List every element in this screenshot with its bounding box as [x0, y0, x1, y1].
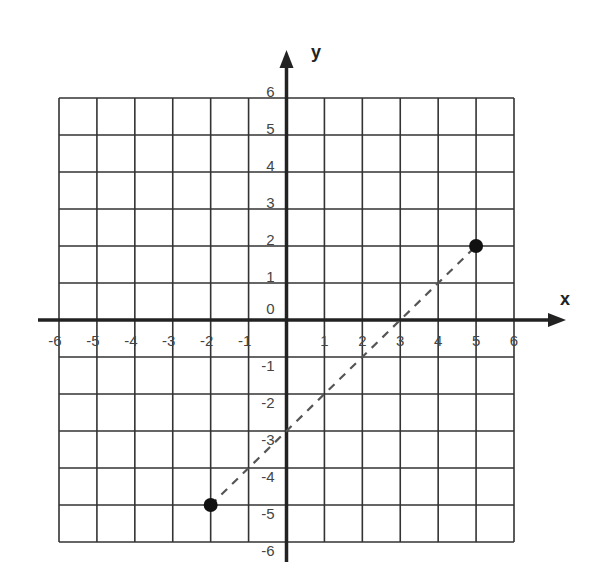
y-axis-arrow-icon [280, 50, 294, 68]
y-tick-label: 2 [266, 231, 274, 248]
y-tick-label: -1 [261, 357, 274, 374]
y-tick-label: -2 [261, 394, 274, 411]
y-axis-label: y [311, 42, 321, 62]
y-tick-label: 1 [266, 268, 274, 285]
x-tick-label: 5 [472, 332, 480, 349]
y-tick-label: 6 [266, 83, 274, 100]
y-tick-label: -4 [261, 468, 274, 485]
data-point [204, 498, 218, 512]
y-tick-label: -5 [261, 505, 274, 522]
x-tick-label: -1 [238, 332, 251, 349]
x-tick-label: 1 [320, 332, 328, 349]
coordinate-plane: xy-6-5-4-3-2-11234566543210-1-2-3-4-5-6 [0, 0, 603, 583]
y-tick-label: 4 [266, 157, 274, 174]
y-tick-label: 5 [266, 120, 274, 137]
x-axis-label: x [560, 289, 570, 309]
y-tick-label: -6 [261, 542, 274, 559]
x-axis-arrow-icon [548, 313, 566, 327]
y-tick-label: 3 [266, 194, 274, 211]
x-tick-label: -4 [124, 332, 137, 349]
y-tick-label: -3 [261, 431, 274, 448]
data-point [469, 239, 483, 253]
x-tick-label: 6 [510, 332, 518, 349]
x-tick-label: -2 [200, 332, 213, 349]
x-tick-label: 4 [434, 332, 442, 349]
x-tick-label: 3 [396, 332, 404, 349]
x-tick-label: -6 [48, 332, 61, 349]
x-tick-label: 2 [358, 332, 366, 349]
dashed-line [211, 246, 476, 505]
x-tick-label: -3 [162, 332, 175, 349]
x-tick-label: -5 [86, 332, 99, 349]
y-tick-label: 0 [266, 300, 274, 317]
